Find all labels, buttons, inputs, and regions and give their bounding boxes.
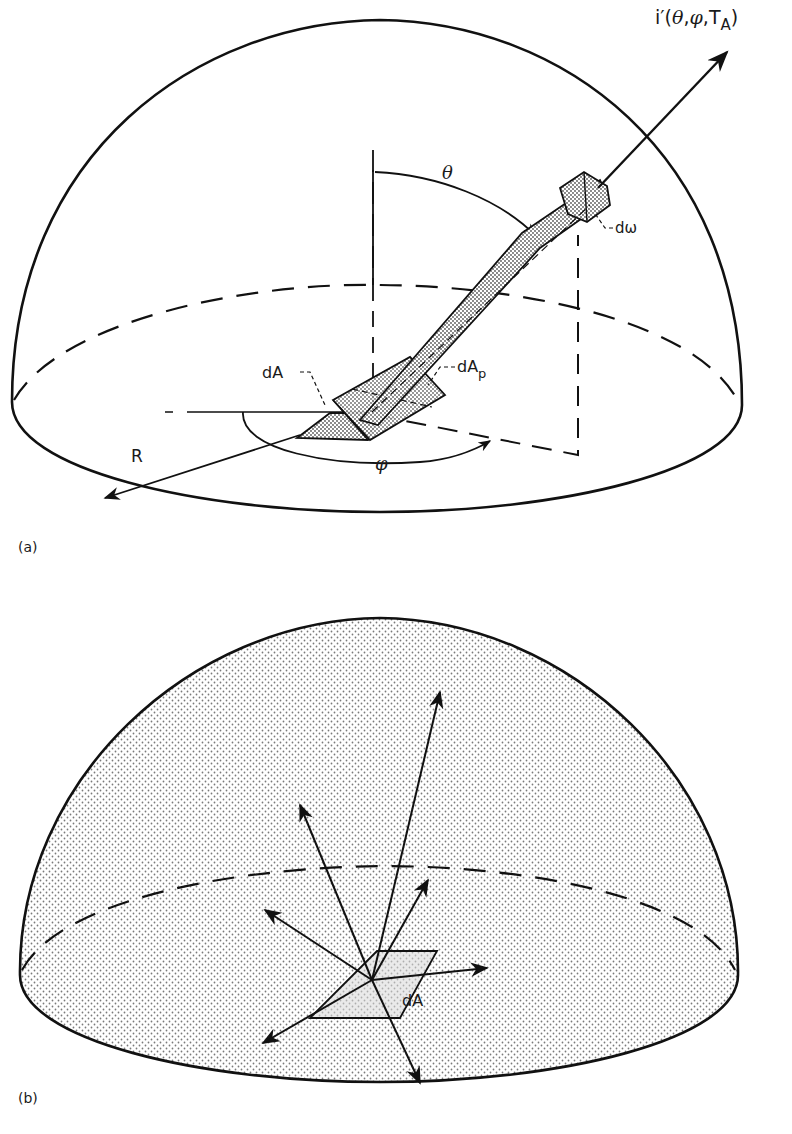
solid-angle-beam <box>360 180 608 425</box>
projected-area-label: dAp <box>457 357 486 381</box>
hemisphere-outline-a <box>12 20 742 512</box>
hemisphere-diagram: i′(θ,φ,TA) θ φ R dω dA dAp (a) dA (b) <box>0 0 792 1134</box>
phi-label: φ <box>375 453 388 474</box>
intensity-label: i′(θ,φ,TA) <box>655 6 738 34</box>
intensity-arrow <box>598 52 727 188</box>
area-label: dA <box>262 363 283 382</box>
theta-arc <box>375 172 535 235</box>
radius-label: R <box>131 446 143 466</box>
dw-leader <box>596 215 613 228</box>
radius-arrow <box>105 435 300 498</box>
figure-b: dA (b) <box>18 618 738 1106</box>
azimuth-projection-dashed <box>375 235 578 455</box>
dA-leader <box>300 372 325 405</box>
figure-a: i′(θ,φ,TA) θ φ R dω dA dAp (a) <box>12 6 742 555</box>
theta-label: θ <box>442 162 453 183</box>
panel-label-a: (a) <box>18 539 38 555</box>
solid-angle-label: dω <box>615 219 637 237</box>
panel-label-b: (b) <box>18 1090 38 1106</box>
area-label-b: dA <box>402 991 423 1010</box>
